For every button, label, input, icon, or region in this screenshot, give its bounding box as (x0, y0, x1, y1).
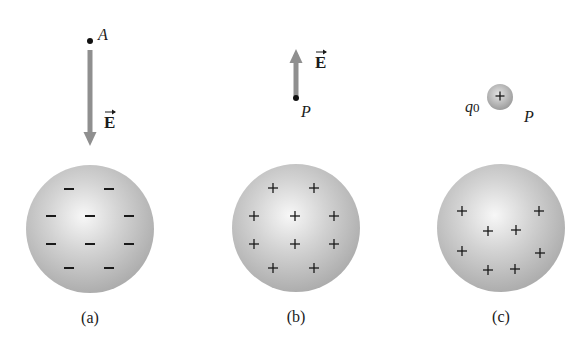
panel-c: q0 P (c) (437, 84, 565, 326)
field-arrow-head (84, 132, 97, 146)
charged-spheres-figure: A E (a) P E (b) q0 P (c) (0, 0, 588, 350)
field-vector-label: E (104, 110, 116, 133)
test-charge-label: q0 (465, 98, 480, 116)
field-arrow-head (290, 49, 303, 63)
panel-caption: (b) (287, 308, 306, 326)
panel-b: P E (b) (232, 49, 360, 326)
positively-charged-sphere (232, 164, 360, 292)
point-dot (293, 95, 299, 101)
panel-a: A E (a) (26, 26, 154, 327)
field-vector-symbol: E (315, 53, 326, 72)
point-label: P (523, 108, 534, 125)
point-label: P (300, 103, 311, 120)
panel-caption: (a) (81, 309, 99, 327)
panel-caption: (c) (492, 308, 510, 326)
field-vector-symbol: E (104, 113, 115, 132)
positively-charged-sphere (437, 164, 565, 292)
point-dot (87, 38, 93, 44)
field-vector-label: E (315, 50, 327, 73)
point-label: A (97, 26, 108, 43)
negatively-charged-sphere (26, 165, 154, 293)
